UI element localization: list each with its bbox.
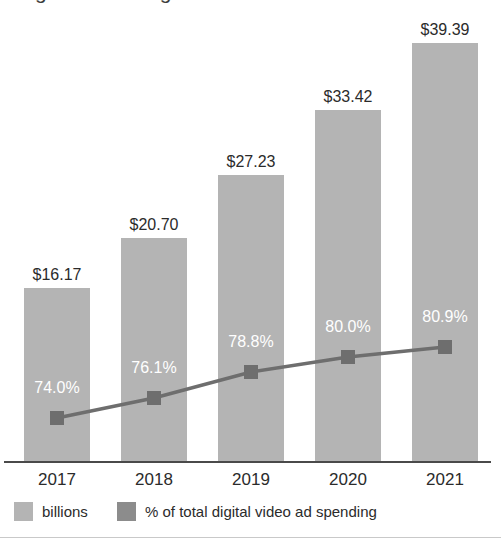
x-axis-line: [4, 461, 491, 463]
x-tick-2018: 2018: [106, 470, 202, 490]
legend-label: billions: [42, 503, 88, 520]
pct-value-label: 78.8%: [206, 333, 296, 351]
plot-area: $16.17 $20.70 $27.23 $33.42 $39.39 74.0%…: [0, 0, 501, 462]
x-tick-2019: 2019: [203, 470, 299, 490]
pct-value-label: 74.0%: [12, 379, 102, 397]
x-tick-2017: 2017: [9, 470, 105, 490]
legend-label: % of total digital video ad spending: [145, 503, 377, 520]
line-marker-2017: [50, 411, 64, 425]
legend-swatch-icon: [117, 502, 136, 521]
legend-swatch-icon: [14, 502, 33, 521]
bottom-divider: [0, 537, 501, 538]
line-marker-2019: [244, 365, 258, 379]
pct-value-label: 80.9%: [400, 308, 490, 326]
chart-legend: billions % of total digital video ad spe…: [0, 500, 501, 524]
chart-page: Programmatic Digital Video $16.17 $20.70…: [0, 0, 501, 546]
x-tick-2020: 2020: [300, 470, 396, 490]
pct-value-label: 76.1%: [109, 359, 199, 377]
pct-value-label: 80.0%: [303, 318, 393, 336]
legend-item-billions: billions: [14, 500, 88, 522]
line-marker-2021: [438, 340, 452, 354]
legend-item-percent: % of total digital video ad spending: [117, 500, 377, 522]
x-tick-2021: 2021: [397, 470, 493, 490]
line-marker-2018: [147, 391, 161, 405]
line-marker-2020: [341, 350, 355, 364]
